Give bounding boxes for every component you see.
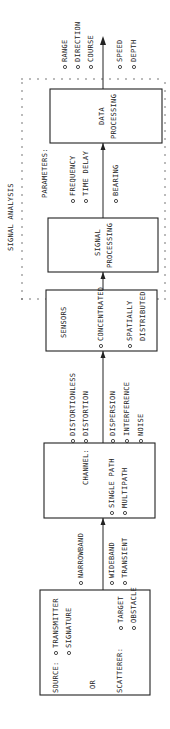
region-border-dot [53,78,54,79]
region-border-dot [101,78,102,79]
signal-analysis-diagram: SIGNAL ANALYSIS SOURCE: TRANSMITTER SIGN… [0,0,170,729]
channel-effect-noise: NOISE [137,413,145,436]
region-border-dot [45,78,46,79]
parameter-frequency: FREQUENCY [69,155,77,196]
arrowhead-output [100,36,106,45]
region-border-dot [164,242,165,243]
region-border-dot [164,194,165,195]
arrowhead-to-channel [101,518,106,525]
signal-processing-box: SIGNAL PROCESSING [48,218,158,272]
region-border-dot [21,114,22,115]
signal-analysis-title: SIGNAL ANALYSIS [7,183,15,251]
region-border-dot [69,78,70,79]
region-border-dot [21,202,22,203]
region-border-dot [21,178,22,179]
region-border-dot [109,78,110,79]
region-border-dot [164,202,165,203]
region-border-dot [164,162,165,163]
region-border-dot [164,130,165,131]
region-border-dot [21,242,22,243]
or-label: OR [89,679,97,689]
signal-processing-line2: PROCESSING [106,223,114,268]
source-label: SOURCE: [52,661,60,693]
region-border-dot [164,122,165,123]
scatterer-item-target: TARGET [117,595,125,623]
region-border-dot [164,266,165,267]
output-range: RANGE [61,39,69,62]
region-border-dot [21,250,22,251]
output-speed: SPEED [116,39,124,62]
region-border-dot [164,282,165,283]
region-border-dot [21,282,22,283]
region-border-dot [164,114,165,115]
source-box: SOURCE: TRANSMITTER SIGNATURE OR SCATTER… [40,587,150,695]
channel-effect-dispersion: DISPERSION [109,391,117,436]
region-border-dot [21,154,22,155]
signal-processing-line1: SIGNAL [94,229,102,256]
region-border-dot [164,218,165,219]
region-border-dot [164,250,165,251]
region-border-dot [21,170,22,171]
region-border-dot [77,78,78,79]
sensors-item-concentrated: CONCENTRATED [97,287,105,341]
signal-type-transient: TRANSIENT [121,537,129,578]
region-border-dot [117,78,118,79]
source-item-transmitter: TRANSMITTER [52,598,60,648]
parameter-bearing: BEARING [112,164,120,196]
parameters-label: PARAMETERS: [41,148,49,198]
region-border-dot [21,218,22,219]
arrowhead-to-data-processing [101,143,106,150]
region-border-dot [21,138,22,139]
channel-effect-distortion: DISTORTION [82,391,90,436]
region-border-dot [157,78,158,79]
region-border-dot [21,98,22,99]
signal-type-narrowband: NARROWBAND [77,533,85,578]
region-border-dot [21,130,22,131]
channel-box: CHANNEL: SINGLE PATH MULTIPATH [44,443,155,518]
region-border-dot [133,78,134,79]
region-border-dot [164,274,165,275]
region-border-dot [164,258,165,259]
region-border-dot [164,146,165,147]
region-border-dot [93,78,94,79]
region-border-dot [29,78,30,79]
region-border-dot [164,82,165,83]
region-border-dot [21,162,22,163]
region-border-dot [164,90,165,91]
channel-label: CHANNEL: [82,449,90,485]
scatterer-item-obstacle: OBSTACLE [130,587,138,623]
channel-effect-interference: INTERFERENCE [123,382,131,436]
region-border-dot [29,298,30,299]
region-border-dot [141,78,142,79]
channel-effect-distortionless: DISTORTIONLESS [69,373,77,436]
region-border-dot [21,226,22,227]
scatterer-label: SCATTERER: [116,648,124,693]
sensors-item-distributed: DISTRIBUTED [139,291,147,341]
region-border-dot [164,138,165,139]
parameter-time-delay: TIME DELAY [82,150,90,196]
region-border-dot [37,78,38,79]
region-border-dot [21,82,22,83]
region-border-dot [21,106,22,107]
arrowhead-to-sensors [101,351,106,358]
output-direction: DIRECTION [74,21,82,62]
sensors-box: SENSORS CONCENTRATED SPATIALLY DISTRIBUT… [46,287,157,351]
channel-item-multipath: MULTIPATH [121,467,129,508]
region-border-dot [21,266,22,267]
region-border-dot [149,78,150,79]
region-border-dot [21,274,22,275]
source-item-signature: SIGNATURE [65,607,73,648]
region-border-dot [37,298,38,299]
signal-type-wideband: WIDEBAND [108,542,116,578]
region-border-dot [164,186,165,187]
data-processing-box: DATA PROCESSING [50,89,162,143]
data-processing-line1: DATA [98,106,106,125]
region-border-dot [21,146,22,147]
region-border-dot [164,290,165,291]
region-border-dot [85,78,86,79]
region-border-dot [21,258,22,259]
output-course: COURSE [87,35,95,62]
region-border-dot [61,78,62,79]
region-border-dot [164,226,165,227]
region-border-dot [21,122,22,123]
